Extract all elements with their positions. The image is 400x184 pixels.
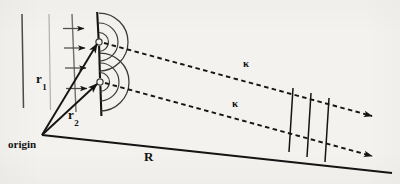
outgoing-ray-lower [105,83,372,156]
wavefront-lower-3 [100,53,129,111]
reference-line-dark [22,14,24,108]
label-r2: r2 [68,108,78,125]
label-origin: origin [8,139,36,150]
label-kappa-upper: κ [243,58,249,69]
label-r1-subscript: 1 [42,82,47,92]
scattering-geometry-figure: r1 r2 origin R κ κ [0,0,400,184]
label-r2-base: r [68,107,74,122]
baseline-R [42,135,392,173]
wavefronts-upper-slit [96,13,128,71]
label-r1: r1 [36,72,46,89]
label-r2-subscript: 2 [74,118,79,128]
barrier-segment-middle [99,46,100,78]
wavefront-upper-1 [99,33,108,52]
reference-line-faint [49,14,51,110]
label-distance-R: R [144,150,153,163]
aperture-lower [97,79,103,85]
diagram-canvas [0,0,400,184]
label-r1-base: r [36,71,42,86]
detector-plane-3 [325,98,329,162]
incident-wavefront-reference-lines [22,14,51,110]
detector-planes [289,88,329,162]
slit-barrier [97,12,101,116]
detector-plane-1 [289,88,293,152]
label-kappa-lower: κ [232,98,238,109]
detector-plane-2 [307,93,311,157]
barrier-segment-top [97,12,98,39]
wavefront-upper-3 [99,13,128,71]
